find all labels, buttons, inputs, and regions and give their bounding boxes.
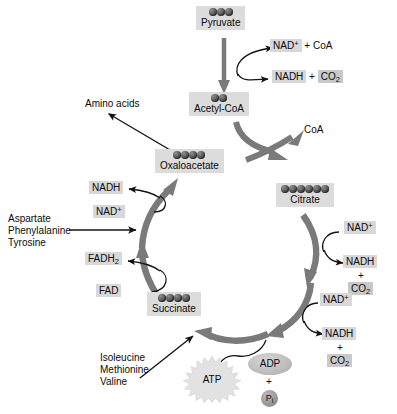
pyruvate-dehydrogenase-curve (237, 48, 272, 80)
label-atp: ATP (192, 374, 232, 385)
label-fadh2: FADH2 (85, 253, 122, 267)
label-coa-release: CoA (304, 124, 323, 136)
label-plus-right-upper: + (358, 270, 364, 282)
metabolite-oxaloacetate: Oxaloacetate (155, 149, 224, 173)
label-coa-top: CoA (313, 40, 332, 51)
metabolite-pyruvate: Pyruvate (196, 6, 245, 30)
label-amino-acids: Amino acids (85, 98, 139, 110)
label-nadh-right-upper: NADH (343, 256, 377, 268)
metabolite-label-citrate: Citrate (281, 194, 329, 205)
metabolite-label-oxaloacetate: Oxaloacetate (160, 160, 219, 171)
carbon-spheres-pyruvate (201, 8, 240, 17)
label-valine: Valine (100, 376, 149, 388)
label-aspartate: Aspartate (8, 213, 71, 225)
succinylcoa-to-succinate-arc (205, 333, 268, 341)
label-nad-plus-right-lower: NAD+ (320, 294, 352, 306)
pyruvate-to-acetylcoa-arrow (218, 38, 230, 94)
metabolite-succinate: Succinate (147, 292, 201, 316)
label-isoleucine-group: Isoleucine Methionine Valine (100, 352, 149, 389)
malate-to-oxaloacetate-arc (142, 190, 169, 248)
label-methionine: Methionine (100, 364, 149, 376)
label-adp: ADP (248, 353, 292, 375)
label-co2-right-upper: CO2 (348, 283, 373, 297)
label-inorganic-phosphate: Pi (261, 390, 278, 407)
label-nadh-right-lower: NADH (322, 328, 356, 340)
label-fad: FAD (96, 285, 121, 297)
nadh-co2-out-curve (238, 74, 268, 80)
isocitrate-dehydrogenase-curve (323, 232, 343, 263)
label-nad-plus-coa: NAD+ + CoA (270, 40, 332, 52)
citric-acid-cycle-diagram: Pyruvate Acetyl-CoA Oxaloacetate Citrate… (0, 0, 397, 414)
metabolite-label-acetyl-coa: Acetyl-CoA (194, 103, 244, 114)
carbon-spheres-acetyl-coa (194, 94, 244, 103)
label-tyrosine: Tyrosine (8, 237, 71, 249)
label-plus-adp-pi: + (266, 376, 272, 387)
label-nad-plus-right-upper: NAD+ (344, 222, 376, 234)
metabolite-label-succinate: Succinate (152, 303, 196, 314)
label-plus-right-lower: + (337, 342, 343, 354)
label-nadh-left: NADH (89, 182, 123, 194)
label-nadh-co2-top: NADH + CO2 (272, 71, 343, 85)
label-co2-right-lower: CO2 (327, 355, 352, 369)
metabolite-citrate: Citrate (276, 183, 334, 207)
succinylcoa-to-succinate-head (194, 327, 212, 340)
carbon-spheres-oxaloacetate (160, 151, 219, 160)
nad-coa-in-curve (237, 48, 272, 76)
label-phenylalanine: Phenylalanine (8, 225, 71, 237)
ketoglutarate-dehydrogenase-curve (303, 303, 323, 334)
metabolite-acetyl-coa: Acetyl-CoA (189, 92, 249, 116)
carbon-spheres-citrate (281, 185, 329, 194)
carbon-spheres-succinate (152, 294, 196, 303)
label-isoleucine: Isoleucine (100, 352, 149, 364)
label-aspartate-group: Aspartate Phenylalanine Tyrosine (8, 213, 71, 250)
metabolite-label-pyruvate: Pyruvate (201, 17, 240, 28)
label-nad-plus-left: NAD+ (93, 206, 125, 218)
